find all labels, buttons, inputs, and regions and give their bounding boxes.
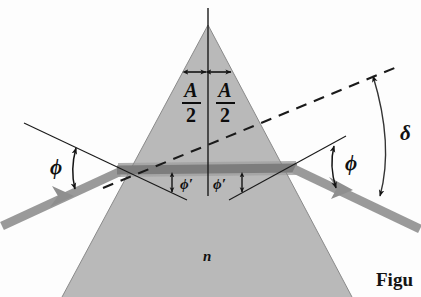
prism-refraction-figure: A 2 A 2 ϕ ϕ ϕ′ ϕ′ δ n Figu (0, 0, 421, 297)
figure-caption-partial: Figu (376, 269, 413, 291)
delta-label: δ (400, 123, 411, 144)
refractive-index-label: n (203, 249, 211, 264)
apex-half-angle-right-numerator: A (212, 80, 238, 101)
phi-label-right: ϕ (345, 153, 357, 174)
apex-half-angle-right-denominator: 2 (212, 105, 238, 126)
incident-ray-arrowhead (50, 186, 74, 207)
apex-half-angle-right-label: A 2 (212, 80, 238, 126)
phi-label-left: ϕ (50, 157, 62, 178)
phi-prime-label-right: ϕ′ (213, 177, 226, 192)
internal-ray (117, 168, 297, 170)
apex-half-angle-left-denominator: 2 (178, 105, 204, 126)
exit-ray (294, 169, 420, 229)
apex-half-angle-left-label: A 2 (178, 80, 204, 126)
phi-arc-left (73, 148, 76, 189)
delta-arc (373, 76, 386, 196)
phi-prime-label-left: ϕ′ (180, 177, 193, 192)
apex-half-angle-left-numerator: A (178, 80, 204, 101)
